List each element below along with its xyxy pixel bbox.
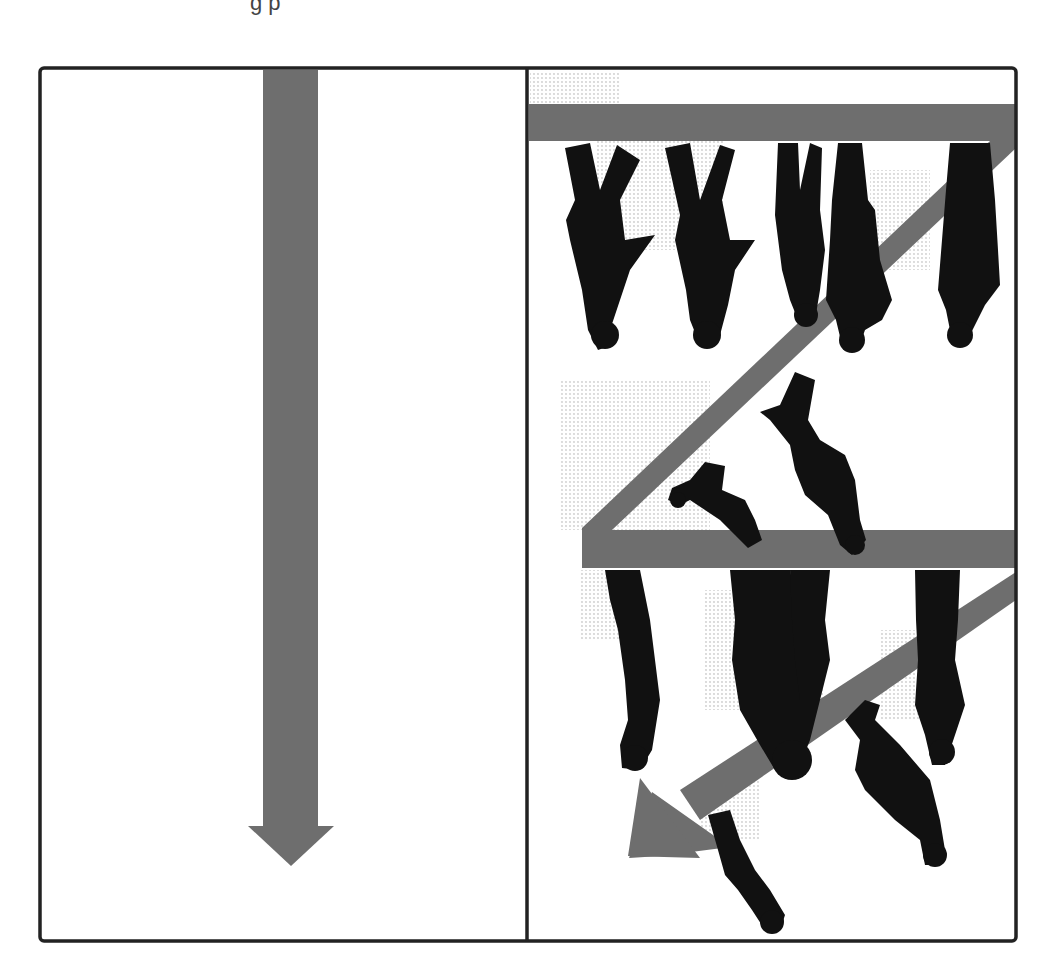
person-silhouette (775, 143, 825, 325)
person-silhouette (760, 372, 866, 555)
person-silhouette (938, 143, 1000, 345)
left-panel-down-arrow-icon (248, 70, 334, 866)
queue-diagram (0, 0, 1041, 962)
panel-frame (40, 68, 1016, 941)
person-silhouette (665, 143, 755, 345)
person-silhouette (915, 570, 965, 765)
person-silhouette (605, 570, 660, 770)
